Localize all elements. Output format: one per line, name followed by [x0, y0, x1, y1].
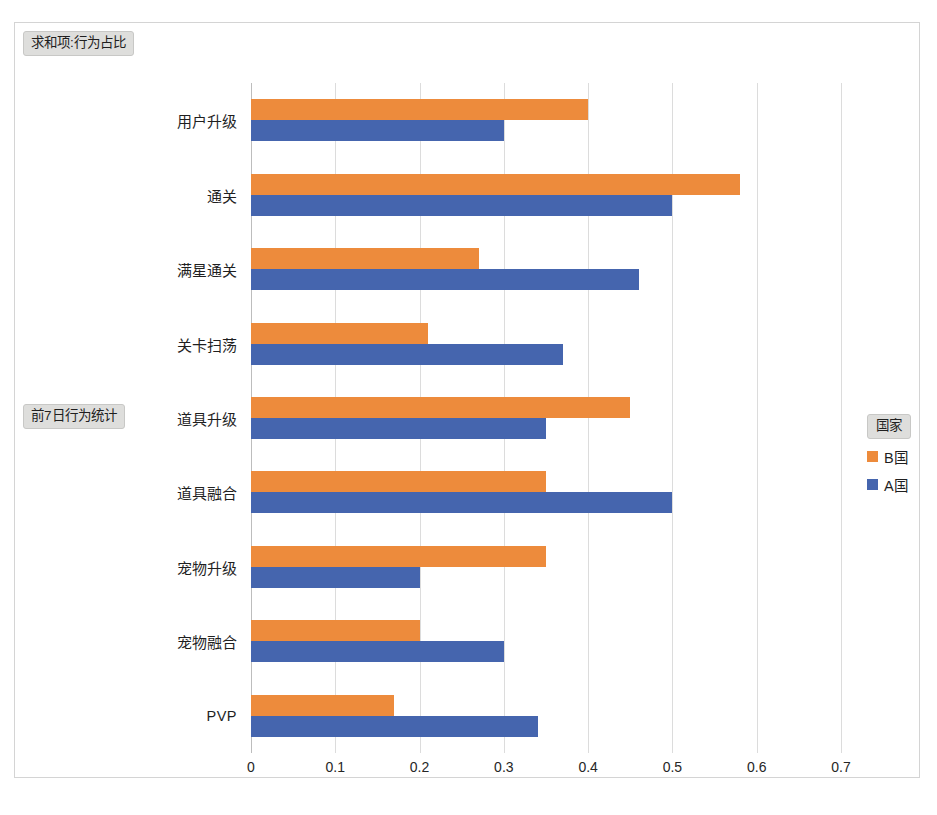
bar-fill — [251, 546, 546, 567]
bar-fill — [251, 641, 504, 662]
x-tick-label: 0.2 — [410, 759, 429, 775]
chart-legend[interactable]: 国家 B国A国 — [867, 414, 933, 495]
x-axis: 00.10.20.30.40.50.60.7 — [251, 753, 841, 783]
pivot-chart-frame[interactable]: 求和项:行为占比 前7日行为统计 用户升级通关满星通关关卡扫荡道具升级道具融合宠… — [14, 22, 920, 778]
bar-B国[interactable] — [251, 323, 428, 344]
category-label: 宠物融合 — [177, 631, 237, 652]
x-tick-label: 0.7 — [831, 759, 850, 775]
bar-fill — [251, 120, 504, 141]
bar-A国[interactable] — [251, 418, 546, 439]
bar-A国[interactable] — [251, 120, 504, 141]
category-label: 宠物升级 — [177, 556, 237, 577]
bar-fill — [251, 323, 428, 344]
legend-title-button[interactable]: 国家 — [867, 414, 911, 439]
legend-swatch-icon — [867, 451, 878, 462]
bar-A国[interactable] — [251, 195, 672, 216]
category-row: 用户升级 — [251, 83, 841, 157]
bar-fill — [251, 269, 639, 290]
category-label: 道具融合 — [177, 482, 237, 503]
bar-A国[interactable] — [251, 269, 639, 290]
bar-fill — [251, 418, 546, 439]
bar-B国[interactable] — [251, 99, 588, 120]
legend-items: B国A国 — [867, 446, 933, 495]
category-label: 关卡扫荡 — [177, 333, 237, 354]
legend-label: B国 — [884, 446, 908, 467]
x-tick-label: 0.4 — [578, 759, 597, 775]
bar-B国[interactable] — [251, 695, 394, 716]
legend-swatch-icon — [867, 479, 878, 490]
bar-B国[interactable] — [251, 397, 630, 418]
gridline — [841, 83, 842, 753]
bar-fill — [251, 567, 420, 588]
row-field-button[interactable]: 前7日行为统计 — [23, 404, 125, 429]
plot-area: 用户升级通关满星通关关卡扫荡道具升级道具融合宠物升级宠物融合PVP — [251, 83, 841, 753]
bar-B国[interactable] — [251, 620, 420, 641]
category-label: 满星通关 — [177, 259, 237, 280]
bar-fill — [251, 248, 479, 269]
category-label: PVP — [206, 708, 237, 724]
bar-A国[interactable] — [251, 567, 420, 588]
bar-fill — [251, 174, 740, 195]
bar-fill — [251, 397, 630, 418]
bar-fill — [251, 471, 546, 492]
category-row: 宠物融合 — [251, 604, 841, 678]
bar-A国[interactable] — [251, 344, 563, 365]
x-tick-label: 0.5 — [663, 759, 682, 775]
x-tick-label: 0.3 — [494, 759, 513, 775]
category-label: 道具升级 — [177, 407, 237, 428]
bar-B国[interactable] — [251, 174, 740, 195]
legend-item[interactable]: A国 — [867, 474, 933, 495]
x-tick-label: 0.6 — [747, 759, 766, 775]
bar-B国[interactable] — [251, 546, 546, 567]
legend-label: A国 — [884, 474, 908, 495]
bar-A国[interactable] — [251, 641, 504, 662]
bar-A国[interactable] — [251, 716, 538, 737]
category-row: 宠物升级 — [251, 530, 841, 604]
x-tick-label: 0 — [247, 759, 255, 775]
category-row: PVP — [251, 679, 841, 753]
category-row: 通关 — [251, 157, 841, 231]
bar-fill — [251, 492, 672, 513]
category-row: 道具融合 — [251, 455, 841, 529]
bar-B国[interactable] — [251, 471, 546, 492]
bar-A国[interactable] — [251, 492, 672, 513]
bar-fill — [251, 620, 420, 641]
bar-fill — [251, 195, 672, 216]
category-label: 通关 — [207, 184, 237, 205]
category-label: 用户升级 — [177, 110, 237, 131]
bar-B国[interactable] — [251, 248, 479, 269]
legend-item[interactable]: B国 — [867, 446, 933, 467]
category-row: 道具升级 — [251, 381, 841, 455]
category-row: 满星通关 — [251, 232, 841, 306]
bar-fill — [251, 695, 394, 716]
bar-fill — [251, 716, 538, 737]
bar-fill — [251, 344, 563, 365]
sum-field-button[interactable]: 求和项:行为占比 — [23, 31, 134, 56]
x-tick-label: 0.1 — [326, 759, 345, 775]
bar-fill — [251, 99, 588, 120]
category-row: 关卡扫荡 — [251, 306, 841, 380]
